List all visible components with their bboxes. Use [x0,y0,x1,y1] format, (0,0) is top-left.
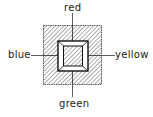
label-green: green [59,99,89,109]
inner-hatched-square [64,46,83,66]
label-yellow: yellow [115,50,149,60]
label-blue: blue [8,50,31,60]
label-red: red [64,3,81,13]
